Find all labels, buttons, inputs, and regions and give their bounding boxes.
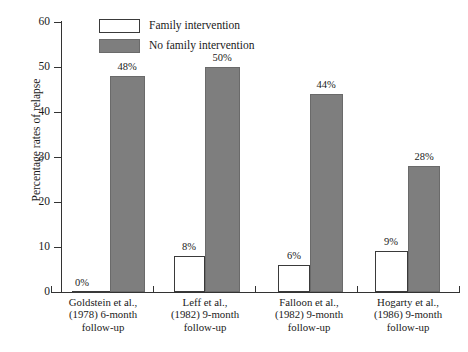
legend-label-no-family-intervention: No family intervention xyxy=(149,40,254,52)
x-axis-divider xyxy=(357,286,358,293)
x-axis-divider xyxy=(51,286,52,293)
bar-value-family-falloon: 6% xyxy=(274,251,314,262)
legend-label-family-intervention: Family intervention xyxy=(149,20,240,32)
y-tick-label-60: 60 xyxy=(20,16,50,28)
group-label-line-3: follow-up xyxy=(150,321,260,333)
group-label-line-2: (1982) 9-month xyxy=(254,308,364,320)
group-label-line-2: (1986) 9-month xyxy=(353,308,463,320)
bar-no-family-goldstein xyxy=(110,76,145,292)
x-group-label-hogarty: Hogarty et al., (1986) 9-month follow-up xyxy=(353,296,463,333)
bar-no-family-falloon xyxy=(310,94,343,292)
bar-value-no-family-goldstein: 48% xyxy=(107,62,147,73)
bar-value-family-hogarty: 9% xyxy=(371,237,411,248)
x-axis-divider xyxy=(459,286,460,293)
x-axis-divider xyxy=(153,286,154,293)
y-axis-line xyxy=(61,21,62,293)
legend-item-no-family-intervention: No family intervention xyxy=(99,37,254,54)
bar-family-leff xyxy=(174,256,205,292)
legend-swatch-gray-icon xyxy=(99,39,140,53)
x-group-label-leff: Leff et al., (1982) 9-month follow-up xyxy=(150,296,260,333)
y-tick-label-40: 40 xyxy=(20,106,50,118)
group-label-line-1: Hogarty et al., xyxy=(353,296,463,308)
legend-swatch-white-icon xyxy=(99,19,140,33)
bar-no-family-hogarty xyxy=(408,166,440,292)
chart-legend: Family intervention No family interventi… xyxy=(99,17,254,57)
x-group-label-goldstein: Goldstein et al., (1978) 6-month follow-… xyxy=(46,296,160,333)
bar-value-no-family-falloon: 44% xyxy=(306,80,346,91)
y-tick-label-text: 10 xyxy=(20,241,50,253)
y-tick-label-20: 20 xyxy=(20,196,50,208)
legend-item-family-intervention: Family intervention xyxy=(99,17,254,34)
group-label-line-3: follow-up xyxy=(353,321,463,333)
y-tick-label-text: 40 xyxy=(20,106,50,118)
y-tick-label-10: 10 xyxy=(20,241,50,253)
y-tick-label-text: 60 xyxy=(20,16,50,28)
group-label-line-1: Leff et al., xyxy=(150,296,260,308)
group-label-line-1: Goldstein et al., xyxy=(46,296,160,308)
bar-value-family-goldstein: 0% xyxy=(62,278,102,289)
bar-value-no-family-hogarty: 28% xyxy=(404,152,444,163)
bar-family-falloon xyxy=(278,265,310,292)
y-tick-label-30: 30 xyxy=(20,151,50,163)
y-tick-label-text: 50 xyxy=(20,61,50,73)
bar-family-goldstein xyxy=(72,291,110,293)
y-tick-label-text: 30 xyxy=(20,151,50,163)
relapse-rates-bar-chart: Percentage rates of relapse 0 10 20 30 4… xyxy=(0,0,468,352)
x-group-label-falloon: Falloon et al., (1982) 9-month follow-up xyxy=(254,296,364,333)
y-tick-label-text: 20 xyxy=(20,196,50,208)
group-label-line-2: (1982) 9-month xyxy=(150,308,260,320)
bar-family-hogarty xyxy=(375,251,408,292)
y-tick-label-50: 50 xyxy=(20,61,50,73)
group-label-line-3: follow-up xyxy=(46,321,160,333)
bar-no-family-leff xyxy=(205,67,240,292)
group-label-line-3: follow-up xyxy=(254,321,364,333)
group-label-line-1: Falloon et al., xyxy=(254,296,364,308)
bar-value-family-leff: 8% xyxy=(169,242,209,253)
group-label-line-2: (1978) 6-month xyxy=(46,308,160,320)
x-axis-divider xyxy=(255,286,256,293)
